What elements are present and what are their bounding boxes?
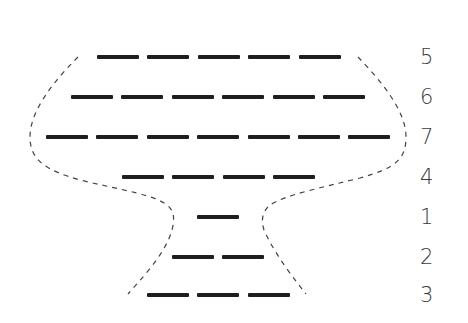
dash-segment xyxy=(197,215,239,219)
dash-segment xyxy=(172,95,214,99)
dash-segment xyxy=(172,255,214,259)
dash-segment xyxy=(198,55,240,59)
dash-segment xyxy=(71,95,113,99)
dash-segment xyxy=(273,95,315,99)
dash-segment xyxy=(248,55,290,59)
dash-segment xyxy=(147,135,189,139)
dash-segment xyxy=(273,175,315,179)
dash-segment xyxy=(121,95,163,99)
row-label: 3 xyxy=(420,283,440,307)
dash-segment xyxy=(197,293,239,297)
dash-segment xyxy=(97,55,139,59)
dash-segment xyxy=(222,95,264,99)
dash-segment xyxy=(323,95,365,99)
row-label: 5 xyxy=(420,45,440,69)
dash-segment xyxy=(222,255,264,259)
row-label: 1 xyxy=(420,205,440,229)
dash-segment xyxy=(298,135,340,139)
row-label: 4 xyxy=(420,165,440,189)
dash-segment xyxy=(223,175,265,179)
dash-segment xyxy=(172,175,214,179)
dash-segment xyxy=(46,135,88,139)
dash-segment xyxy=(96,135,138,139)
row-label: 6 xyxy=(420,85,440,109)
goblet-diagram: 5 6 7 4 1 2 3 xyxy=(0,0,468,323)
dash-segment xyxy=(248,293,290,297)
row-label: 2 xyxy=(420,245,440,269)
dash-segment xyxy=(348,135,390,139)
dash-segment xyxy=(147,293,189,297)
dash-segment xyxy=(248,135,290,139)
dash-segment xyxy=(122,175,164,179)
dash-segment xyxy=(147,55,189,59)
dash-segment xyxy=(299,55,341,59)
row-label: 7 xyxy=(420,125,440,149)
goblet-outline xyxy=(0,0,468,323)
dash-segment xyxy=(197,135,239,139)
